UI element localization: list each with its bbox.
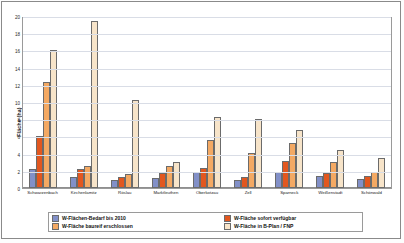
legend-swatch-icon xyxy=(52,215,59,222)
gridline xyxy=(23,172,391,173)
bar xyxy=(357,179,364,188)
gridline xyxy=(23,51,391,52)
bar xyxy=(296,130,303,188)
bar xyxy=(152,178,159,188)
bar xyxy=(111,180,118,188)
y-axis-tick-label: 6 xyxy=(17,136,20,141)
gridline xyxy=(23,120,391,121)
x-axis-label: Sparneck xyxy=(269,190,310,210)
y-axis-tick-label: 0 xyxy=(17,188,20,193)
legend-item[interactable]: W-Fläche baureif erschlossen xyxy=(52,223,224,230)
bar xyxy=(214,117,221,188)
bar xyxy=(84,166,91,188)
bar xyxy=(282,161,289,188)
bar xyxy=(371,172,378,188)
bar xyxy=(70,177,77,188)
bar xyxy=(132,100,139,188)
bar xyxy=(323,173,330,188)
legend-label: W-Fläche sofort verfügbar xyxy=(234,216,296,221)
bar xyxy=(125,174,132,188)
x-axis-labels: SchwarzenbachKirchenlamitzRöslauMarktleu… xyxy=(22,190,392,210)
legend-item[interactable]: W-Flächen-Bedarf bis 2010 xyxy=(52,215,224,222)
gridline xyxy=(23,34,391,35)
bar xyxy=(118,177,125,188)
legend-label: W-Fläche baureif erschlossen xyxy=(62,224,133,229)
x-axis-label: Röslau xyxy=(104,190,145,210)
y-axis-tick-label: 10 xyxy=(15,102,20,107)
x-axis-label: Marktleuthen xyxy=(145,190,186,210)
y-axis-tick-label: 12 xyxy=(15,85,20,90)
legend-swatch-icon xyxy=(224,215,231,222)
gridline xyxy=(23,155,391,156)
y-axis-tick-label: 18 xyxy=(15,33,20,38)
bar xyxy=(241,177,248,188)
gridline xyxy=(23,69,391,70)
bar xyxy=(166,166,173,188)
gridline xyxy=(23,137,391,138)
y-axis-tick-label: 20 xyxy=(15,16,20,21)
chart-page: Fläche (ha) 02468101214161820 Schwarzenb… xyxy=(0,0,404,243)
gridline xyxy=(23,86,391,87)
y-axis-tick-label: 4 xyxy=(17,153,20,158)
y-axis-tick-label: 14 xyxy=(15,67,20,72)
x-axis-label: Kirchenlamitz xyxy=(63,190,104,210)
x-axis-label: Weißenstadt xyxy=(310,190,351,210)
plot-area: 02468101214161820 xyxy=(22,17,392,189)
bar xyxy=(330,162,337,188)
gridline xyxy=(23,103,391,104)
legend-item[interactable]: W-Fläche in B-Plan / FNP xyxy=(224,223,367,230)
bar xyxy=(234,180,241,188)
bar xyxy=(316,176,323,188)
bar xyxy=(159,173,166,188)
bar xyxy=(378,158,385,188)
y-axis-tick-label: 2 xyxy=(17,171,20,176)
legend-label: W-Flächen-Bedarf bis 2010 xyxy=(62,216,126,221)
bar xyxy=(91,21,98,188)
bar xyxy=(36,136,43,188)
y-axis-tick-label: 16 xyxy=(15,50,20,55)
bar xyxy=(207,140,214,188)
bar xyxy=(337,150,344,188)
gridline xyxy=(23,17,391,18)
bar xyxy=(275,172,282,188)
bar xyxy=(364,176,371,188)
legend-swatch-icon xyxy=(224,223,231,230)
bar xyxy=(193,172,200,188)
x-axis-label: Oberkotzau xyxy=(186,190,227,210)
bar xyxy=(255,119,262,188)
legend-swatch-icon xyxy=(52,223,59,230)
x-axis-label: Schwarzenbach xyxy=(22,190,63,210)
legend-item[interactable]: W-Fläche sofort verfügbar xyxy=(224,215,367,222)
bar xyxy=(248,153,255,188)
bar xyxy=(289,143,296,188)
legend-label: W-Fläche in B-Plan / FNP xyxy=(234,224,293,229)
x-axis-label: Schönwald xyxy=(351,190,392,210)
y-axis-tick-label: 8 xyxy=(17,119,20,124)
bar xyxy=(50,50,57,188)
x-axis-label: Zell xyxy=(228,190,269,210)
bar xyxy=(173,162,180,189)
chart-legend: W-Flächen-Bedarf bis 2010W-Fläche sofort… xyxy=(48,212,363,232)
